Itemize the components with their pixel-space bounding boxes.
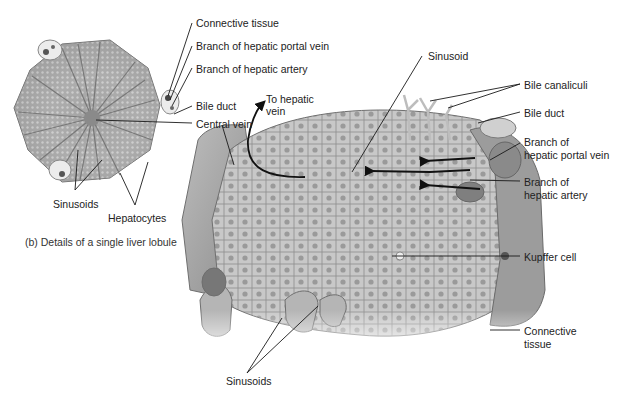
liver-lobule (14, 40, 179, 182)
liver-lobule-figure: Connective tissue Branch of hepatic port… (0, 0, 618, 402)
label-central-vein: Central vein (196, 118, 252, 130)
label-hepatic-artery-block-2: hepatic artery (524, 189, 588, 201)
label-kupffer-cell: Kupffer cell (524, 251, 576, 263)
label-bile-duct: Bile duct (196, 100, 236, 112)
central-vein-shape (84, 110, 100, 126)
label-hepatocytes: Hepatocytes (108, 212, 166, 224)
liver-tissue-block (180, 95, 560, 360)
label-branch-hepatic-portal-vein: Branch of hepatic portal vein (196, 40, 329, 52)
label-hepatic-artery-block-1: Branch of (524, 176, 569, 188)
label-connective-tissue-block-2: tissue (524, 338, 551, 350)
label-bile-duct-block: Bile duct (524, 107, 564, 119)
label-sinusoids-block: Sinusoids (226, 375, 272, 387)
label-sinusoid: Sinusoid (428, 50, 468, 62)
label-branch-hepatic-artery: Branch of hepatic artery (196, 63, 307, 75)
label-to-hepatic-vein-2: vein (266, 105, 285, 117)
label-to-hepatic-vein-1: To hepatic (266, 93, 314, 105)
label-portal-vein-block-1: Branch of (524, 136, 569, 148)
label-portal-vein-block-2: hepatic portal vein (524, 149, 609, 161)
label-sinusoids-lobule: Sinusoids (53, 198, 99, 210)
figure-caption: (b) Details of a single liver lobule (25, 236, 177, 248)
label-connective-tissue-block-1: Connective (524, 325, 577, 337)
label-connective-tissue: Connective tissue (196, 17, 279, 29)
label-bile-canaliculi: Bile canaliculi (524, 79, 588, 91)
